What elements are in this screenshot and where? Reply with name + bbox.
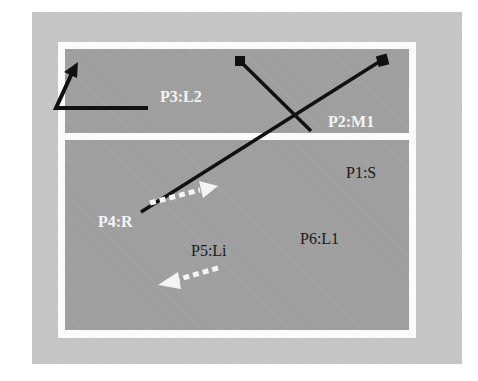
label-p1: P1:S — [346, 165, 376, 181]
label-p3: P3:L2 — [160, 89, 202, 105]
label-p4: P4:R — [98, 214, 133, 230]
dotted-arrow-left-icon — [158, 268, 218, 289]
label-p5: P5:Li — [191, 243, 227, 259]
label-p2: P2:M1 — [328, 114, 374, 130]
bent-arrow-icon — [56, 62, 148, 108]
diagonal-line-r — [141, 54, 389, 212]
diagonal-line-m1 — [235, 56, 311, 131]
diagram-shapes — [0, 0, 478, 381]
label-p6: P6:L1 — [300, 231, 339, 247]
